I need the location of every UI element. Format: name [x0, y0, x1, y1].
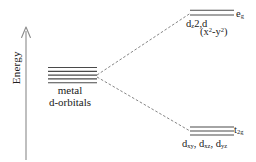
metal-d-orbitals-caption: metal d-orbitals — [26, 85, 114, 108]
eg-paren-mid: -y — [212, 26, 221, 37]
t2g-orbital-sep-2: , — [210, 138, 213, 149]
correlation-lines-group — [97, 14, 190, 132]
crystal-field-splitting-diagram: Energy metal d-orbitals eg dz2,d (x2-y2)… — [0, 0, 256, 162]
eg-orbital-label-line-2: (x2-y2) — [200, 26, 228, 37]
t2g-levels — [190, 127, 234, 135]
eg-paren-open: (x — [200, 26, 209, 37]
t2g-orbital-d3-sub: yz — [221, 142, 227, 149]
eg-levels — [190, 10, 234, 15]
energy-axis-label: Energy — [11, 38, 23, 98]
t2g-symbol-subscript: 2g — [237, 128, 244, 135]
correlation-line-to-eg — [97, 14, 190, 76]
t2g-orbital-sep-1: , — [194, 138, 197, 149]
metal-d-orbital-levels — [48, 68, 97, 83]
eg-term-symbol: eg — [236, 8, 244, 20]
t2g-term-symbol: t2g — [234, 124, 243, 136]
metal-caption-line-2: d-orbitals — [26, 97, 114, 109]
eg-paren-close: ) — [224, 26, 228, 37]
eg-symbol-subscript: g — [241, 12, 244, 19]
metal-caption-line-1: metal — [58, 84, 82, 96]
t2g-orbital-label: dxy, dxz, dyz — [182, 138, 227, 150]
